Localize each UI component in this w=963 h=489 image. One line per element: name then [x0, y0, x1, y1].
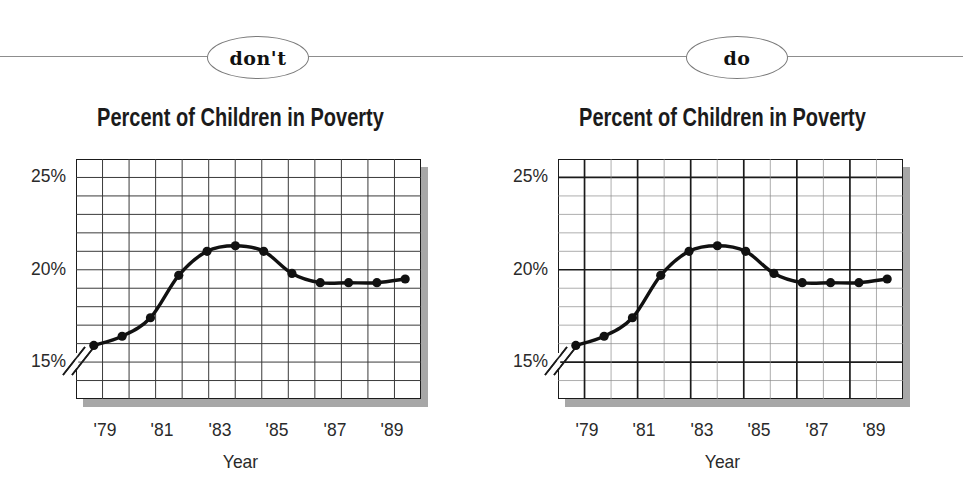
- x-axis-tick-label: '79: [85, 419, 125, 441]
- data-point-marker: [600, 332, 609, 341]
- chart-area-dont: 25%20%15%'79'81'83'85'87'89Year: [0, 95, 481, 489]
- data-point-marker: [656, 271, 665, 280]
- y-axis-tick-label: 20%: [495, 258, 548, 280]
- chart-area-do: 25%20%15%'79'81'83'85'87'89Year: [482, 95, 963, 489]
- x-axis-title: Year: [19, 451, 462, 473]
- x-axis-tick-label: '81: [142, 419, 182, 441]
- data-point-marker: [826, 278, 835, 287]
- x-axis-tick-label: '85: [739, 419, 779, 441]
- data-point-marker: [401, 274, 410, 283]
- x-axis-tick-label: '89: [372, 419, 412, 441]
- badge-do: do: [686, 36, 788, 79]
- x-axis-tick-label: '89: [854, 419, 894, 441]
- x-axis-tick-label: '87: [797, 419, 837, 441]
- data-point-marker: [146, 313, 155, 322]
- data-point-marker: [854, 278, 863, 287]
- data-point-marker: [684, 247, 693, 256]
- data-point-marker: [741, 247, 750, 256]
- data-point-marker: [344, 278, 353, 287]
- data-point-marker: [118, 332, 127, 341]
- axis-break-slash: [545, 347, 567, 375]
- data-point-marker: [316, 278, 325, 287]
- header-divider-rule: [0, 56, 963, 57]
- chart-panel-dont: Percent of Children in Poverty 25%20%15%…: [0, 95, 481, 489]
- data-point-marker: [202, 247, 211, 256]
- badge-dont-label: don't: [230, 47, 287, 69]
- x-axis-tick-label: '83: [200, 419, 240, 441]
- data-point-marker: [571, 341, 580, 350]
- badge-dont: don't: [207, 36, 309, 79]
- data-point-marker: [259, 247, 268, 256]
- y-axis-tick-label: 15%: [13, 350, 66, 372]
- y-axis-tick-label: 20%: [13, 258, 66, 280]
- y-axis-tick-label: 25%: [495, 165, 548, 187]
- badge-do-label: do: [724, 47, 751, 69]
- chart-panel-do: Percent of Children in Poverty 25%20%15%…: [482, 95, 963, 489]
- x-axis-tick-label: '85: [257, 419, 297, 441]
- data-point-marker: [628, 313, 637, 322]
- data-point-marker: [89, 341, 98, 350]
- data-point-marker: [883, 274, 892, 283]
- series-line: [94, 246, 405, 346]
- data-point-marker: [231, 241, 240, 250]
- series-line: [576, 246, 887, 346]
- x-axis-tick-label: '81: [624, 419, 664, 441]
- axis-break-slash: [63, 347, 85, 375]
- data-point-marker: [798, 278, 807, 287]
- data-point-marker: [287, 269, 296, 278]
- data-point-marker: [713, 241, 722, 250]
- y-axis-tick-label: 15%: [495, 350, 548, 372]
- x-axis-tick-label: '87: [315, 419, 355, 441]
- x-axis-tick-label: '79: [567, 419, 607, 441]
- data-point-marker: [372, 278, 381, 287]
- data-point-marker: [769, 269, 778, 278]
- x-axis-title: Year: [501, 451, 944, 473]
- x-axis-tick-label: '83: [682, 419, 722, 441]
- y-axis-tick-label: 25%: [13, 165, 66, 187]
- data-point-marker: [174, 271, 183, 280]
